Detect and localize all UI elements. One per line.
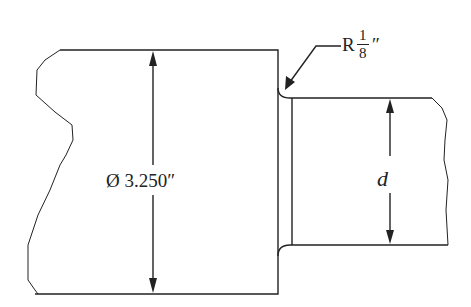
- fillet-numerator: 1: [359, 28, 367, 43]
- fillet-fraction: 1 8: [357, 28, 369, 61]
- large-diameter-label: Ø 3.250″: [104, 170, 177, 192]
- fillet-denominator: 8: [359, 46, 367, 61]
- fillet-leader: [287, 46, 341, 86]
- small-section-top: [278, 88, 432, 98]
- break-line-left: [28, 50, 73, 294]
- small-diameter-label: d: [377, 166, 388, 192]
- break-line-right: [432, 98, 448, 245]
- fillet-prefix: R: [342, 34, 355, 56]
- shaft-diagram: Ø 3.250″ d R 1 8 ″: [0, 0, 471, 307]
- fillet-radius-label: R 1 8 ″: [342, 28, 379, 61]
- shaft-drawing: [0, 0, 471, 307]
- fillet-unit: ″: [371, 34, 379, 56]
- small-section-bottom: [278, 245, 448, 256]
